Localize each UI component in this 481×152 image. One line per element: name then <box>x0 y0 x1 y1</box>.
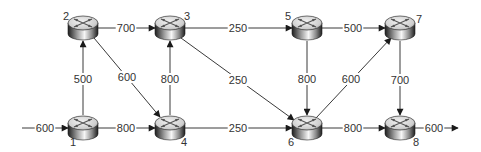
router-node-5: 5 <box>285 10 322 40</box>
svg-text:800: 800 <box>117 122 135 134</box>
router-icon <box>155 16 185 40</box>
router-icon <box>292 116 322 140</box>
node-label: 6 <box>288 136 294 148</box>
edge-label-2-3: 700 <box>116 22 137 34</box>
edge-label-4-6: 250 <box>228 122 249 134</box>
router-icon <box>68 16 98 40</box>
node-label: 2 <box>63 10 69 22</box>
node-label: 1 <box>70 136 76 148</box>
edge-label-in-1: 600 <box>35 122 56 134</box>
svg-text:600: 600 <box>425 122 443 134</box>
edge-label-5-6: 800 <box>297 73 318 85</box>
svg-text:250: 250 <box>229 122 247 134</box>
edge-label-3-5: 250 <box>228 22 249 34</box>
edge-label-2-4: 600 <box>117 71 138 83</box>
svg-text:250: 250 <box>229 22 247 34</box>
router-icon <box>385 116 415 140</box>
edge-label-3-6: 250 <box>228 74 249 86</box>
node-label: 8 <box>413 136 419 148</box>
edge-label-6-8: 800 <box>343 122 364 134</box>
router-icon <box>292 16 322 40</box>
svg-text:250: 250 <box>229 74 247 86</box>
router-node-3: 3 <box>155 10 190 40</box>
router-node-4: 4 <box>155 116 187 148</box>
edge-label-4-3: 800 <box>160 73 181 85</box>
edge-label-5-7: 500 <box>343 22 364 34</box>
node-label: 7 <box>416 13 422 25</box>
svg-text:600: 600 <box>342 73 360 85</box>
svg-text:700: 700 <box>117 22 135 34</box>
edge-label-7-8: 700 <box>390 74 411 86</box>
node-label: 4 <box>181 136 187 148</box>
svg-text:800: 800 <box>344 122 362 134</box>
svg-text:700: 700 <box>391 74 409 86</box>
router-node-8: 8 <box>385 116 419 148</box>
svg-text:600: 600 <box>118 71 136 83</box>
edge-label-1-2: 500 <box>73 73 94 85</box>
svg-text:500: 500 <box>344 22 362 34</box>
network-diagram: 12345678 6005008007006008002502502505008… <box>0 0 481 152</box>
edge-label-1-4: 800 <box>116 122 137 134</box>
router-node-7: 7 <box>385 13 422 40</box>
svg-text:500: 500 <box>74 73 92 85</box>
svg-text:800: 800 <box>161 73 179 85</box>
edge-label-8-out: 600 <box>424 122 445 134</box>
router-node-2: 2 <box>63 10 98 40</box>
router-node-1: 1 <box>68 116 98 148</box>
node-label: 5 <box>285 10 291 22</box>
router-node-6: 6 <box>288 116 322 148</box>
edge-label-6-7: 600 <box>341 73 362 85</box>
svg-text:800: 800 <box>298 73 316 85</box>
labels-layer: 6005008007006008002502502505008006008007… <box>35 22 445 134</box>
svg-text:600: 600 <box>36 122 54 134</box>
router-icon <box>385 16 415 40</box>
node-label: 3 <box>184 10 190 22</box>
